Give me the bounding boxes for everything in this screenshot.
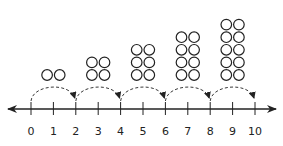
counter-circle [221, 70, 232, 81]
jump-arcs [31, 87, 254, 101]
counter-circle [221, 45, 232, 56]
jump-arc [165, 87, 209, 101]
counter-circle [144, 45, 155, 56]
counter-circle [234, 19, 245, 30]
counter-circle [189, 32, 200, 43]
counter-circle [131, 45, 142, 56]
counter-circle [189, 70, 200, 81]
tick-label: 4 [117, 125, 124, 138]
jump-arc [121, 87, 165, 101]
counter-group [176, 32, 199, 80]
tick-label: 1 [50, 125, 57, 138]
tick-label: 10 [248, 125, 262, 138]
number-line [8, 102, 276, 115]
counter-circle [176, 32, 187, 43]
jump-arc [76, 87, 120, 101]
counter-circle [189, 57, 200, 68]
counter-circle [234, 32, 245, 43]
counter-circle [176, 45, 187, 56]
number-line-figure: 012345678910 [0, 0, 283, 146]
tick-labels: 012345678910 [28, 125, 263, 138]
jump-arc [31, 87, 75, 101]
counter-circle [144, 70, 155, 81]
counter-group [87, 57, 110, 80]
counter-circle [189, 45, 200, 56]
counter-group [42, 70, 65, 81]
counter-circle [42, 70, 53, 81]
counter-circle [99, 57, 110, 68]
counter-group [131, 45, 154, 81]
counter-circle [176, 70, 187, 81]
counter-circle [234, 70, 245, 81]
counter-circle [176, 57, 187, 68]
counter-circle [87, 70, 98, 81]
jump-arc [210, 87, 254, 101]
tick-label: 9 [229, 125, 236, 138]
tick-label: 8 [207, 125, 214, 138]
counter-group [221, 19, 244, 80]
counter-circle [234, 57, 245, 68]
tick-label: 3 [95, 125, 102, 138]
tick-label: 2 [72, 125, 79, 138]
counter-circle [54, 70, 65, 81]
counter-circle [144, 57, 155, 68]
counter-circle [234, 45, 245, 56]
tick-label: 0 [28, 125, 35, 138]
counter-circle [131, 57, 142, 68]
tick-label: 6 [162, 125, 169, 138]
tick-label: 7 [184, 125, 191, 138]
counter-circle [131, 70, 142, 81]
counter-circle [221, 19, 232, 30]
counter-groups [42, 19, 244, 80]
counter-circle [99, 70, 110, 81]
counter-circle [221, 57, 232, 68]
skip-count-diagram: 012345678910 [0, 0, 283, 146]
tick-label: 5 [140, 125, 147, 138]
counter-circle [87, 57, 98, 68]
counter-circle [221, 32, 232, 43]
